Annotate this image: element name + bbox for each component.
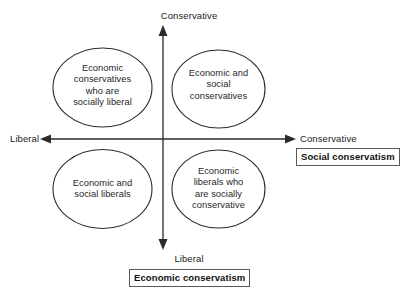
horizontal-axis-left-arrow-icon bbox=[40, 135, 51, 144]
boxed-label-social-conservatism: Social conservatism bbox=[296, 148, 400, 166]
quadrant-label-top-right: Economic and social conservatives bbox=[172, 68, 265, 102]
axis-label-left: Liberal bbox=[10, 133, 39, 144]
axis-label-bottom: Liberal bbox=[0, 253, 378, 264]
horizontal-axis-right-arrow-icon bbox=[285, 135, 296, 144]
quadrant-label-top-left: Economic conservatives who are socially … bbox=[53, 63, 152, 109]
quadrant-label-bottom-left: Economic and social liberals bbox=[53, 178, 152, 201]
axis-label-top: Conservative bbox=[0, 10, 378, 21]
boxed-label-economic-conservatism: Economic conservatism bbox=[129, 269, 250, 287]
axis-label-right: Conservative bbox=[300, 133, 357, 144]
vertical-axis-down-arrow-icon bbox=[159, 239, 168, 250]
vertical-axis-up-arrow-icon bbox=[159, 25, 168, 36]
quadrant-label-bottom-right: Economic liberals who are socially conse… bbox=[172, 166, 265, 212]
